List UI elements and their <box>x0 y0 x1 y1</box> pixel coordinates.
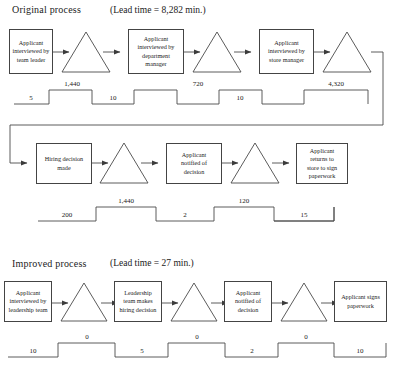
process-line: store manager <box>262 56 311 64</box>
timeline-value: 4,320 <box>328 80 344 88</box>
delay-triangle <box>193 32 241 72</box>
timeline-value: 5 <box>140 347 144 355</box>
process-box-applicant-returns-to-store[interactable]: Applicant returns to store to sign paper… <box>296 143 348 184</box>
process-line: Applicant <box>131 35 181 43</box>
timeline-value: 10 <box>237 94 244 102</box>
timeline-value: 120 <box>239 197 250 205</box>
delay-triangle <box>171 283 217 321</box>
process-line: leadership team <box>7 306 49 314</box>
process-line: Hiring decision <box>39 155 89 163</box>
process-line: paperwork <box>337 302 384 310</box>
process-line: team makes <box>117 297 159 305</box>
process-box-applicant-notified-of-decision[interactable]: Applicant notified of decision <box>166 143 222 184</box>
process-box-applicant-interviewed-leadership-team[interactable]: Applicant interviewed by leadership team <box>4 281 52 322</box>
process-line: Applicant <box>262 39 311 47</box>
timeline-value: 0 <box>85 333 89 341</box>
process-line: department <box>131 52 181 60</box>
timeline-value: 720 <box>193 80 204 88</box>
timeline-value: 200 <box>62 211 73 219</box>
section-title-improved: Improved process <box>12 258 87 269</box>
timeline-value: 10 <box>357 347 364 355</box>
value-stream-map: Original process (Lead time = 8,282 min.… <box>0 0 396 367</box>
process-line: manager <box>131 60 181 68</box>
delay-triangle <box>61 283 107 321</box>
process-line: notified of <box>227 297 269 305</box>
timeline-original-row1 <box>14 90 368 104</box>
process-line: hiring decision <box>117 306 159 314</box>
process-box-applicant-notified-of-decision-improved[interactable]: Applicant notified of decision <box>224 281 272 322</box>
delay-triangle <box>281 283 327 321</box>
timeline-value: 2 <box>250 347 254 355</box>
timeline-value: 1,440 <box>64 80 80 88</box>
process-line: Applicant <box>7 289 49 297</box>
process-box-leadership-team-makes-hiring-decision[interactable]: Leadership team makes hiring decision <box>114 281 162 322</box>
timeline-value: 15 <box>301 211 308 219</box>
lead-time-improved: (Lead time = 27 min.) <box>110 258 194 268</box>
process-box-applicant-signs-paperwork[interactable]: Applicant signs paperwork <box>334 281 387 322</box>
timeline-value: 5 <box>29 94 33 102</box>
process-line: interviewed by <box>12 47 50 55</box>
timeline-value: 10 <box>110 94 117 102</box>
section-title-original: Original process <box>12 4 81 15</box>
timeline-improved <box>8 343 386 357</box>
process-line: decision <box>169 168 219 176</box>
process-line: interviewed by <box>262 47 311 55</box>
process-line: team leader <box>12 56 50 64</box>
process-line: Applicant <box>169 151 219 159</box>
process-line: Leadership <box>117 289 159 297</box>
process-line: made <box>39 164 89 172</box>
process-line: Applicant signs <box>337 293 384 301</box>
timeline-value: 0 <box>304 333 308 341</box>
delay-triangle <box>323 32 371 72</box>
process-line: notified of <box>169 159 219 167</box>
process-line: paperwork <box>299 172 345 180</box>
process-box-applicant-interviewed-department-manager[interactable]: Applicant interviewed by department mana… <box>128 29 184 74</box>
process-line: Applicant <box>227 289 269 297</box>
delay-triangle <box>62 32 110 72</box>
timeline-value: 2 <box>183 211 187 219</box>
timeline-value: 1,440 <box>118 197 134 205</box>
process-line: interviewed by <box>7 297 49 305</box>
lead-time-original: (Lead time = 8,282 min.) <box>110 5 206 15</box>
process-line: returns to <box>299 155 345 163</box>
process-line: store to sign <box>299 164 345 172</box>
process-box-applicant-interviewed-team-leader[interactable]: Applicant interviewed by team leader <box>9 29 53 74</box>
timeline-value: 0 <box>195 333 199 341</box>
timeline-value: 10 <box>30 347 37 355</box>
process-box-hiring-decision-made[interactable]: Hiring decision made <box>36 143 92 184</box>
process-line: interviewed by <box>131 43 181 51</box>
process-line: decision <box>227 306 269 314</box>
process-line: Applicant <box>12 39 50 47</box>
process-box-applicant-interviewed-store-manager[interactable]: Applicant interviewed by store manager <box>259 29 314 74</box>
process-line: Applicant <box>299 147 345 155</box>
delay-triangle <box>231 143 279 183</box>
